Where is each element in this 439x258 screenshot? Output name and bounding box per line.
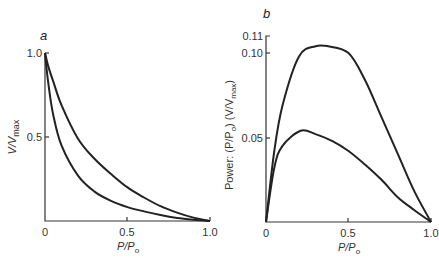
panel-b-axes <box>266 36 431 222</box>
panel-a-axes <box>45 53 210 221</box>
panel-b-xtick-label: 0 <box>263 227 269 239</box>
panel-a-ylabel: V/Vmax <box>6 119 21 154</box>
panel-b-ytick-label: 0.10 <box>242 47 263 59</box>
panel-b-ytick-label: 0.11 <box>242 30 263 42</box>
panel-b-upper-curve <box>266 45 431 222</box>
panel-a-label: a <box>40 28 47 43</box>
panel-b-xtick-label: 1.0 <box>423 227 438 239</box>
panel-a-xtick-label: 0.5 <box>119 226 134 238</box>
panel-a-xtick-label: 1.0 <box>202 226 217 238</box>
panel-a-xlabel: P/Po <box>117 240 140 255</box>
panel-b-ytick-label: 0.05 <box>242 132 263 144</box>
panel-a-upper-curve <box>45 53 210 221</box>
panel-b-lower-curve <box>266 130 431 222</box>
panel-a-xtick-label: 0 <box>42 226 48 238</box>
panel-b-xlabel: P/Po <box>338 241 361 256</box>
panel-b-label: b <box>263 6 270 21</box>
panel-a-ytick-label: 0.5 <box>27 131 42 143</box>
panel-b-xtick-label: 0.5 <box>340 227 355 239</box>
panel-a-ytick-label: 1.0 <box>27 47 42 59</box>
figure: a 1.0 0.5 0 0.5 1.0 P/Po V/Vmax b 0.11 0… <box>0 0 439 258</box>
panel-a: a 1.0 0.5 0 0.5 1.0 P/Po V/Vmax <box>6 28 218 255</box>
panel-b: b 0.11 0.10 0.05 0 0.5 1.0 P/Po Power: (… <box>223 6 439 256</box>
panel-b-ylabel: Power: (P/Po) (V/Vmax) <box>223 80 238 190</box>
panel-a-lower-curve <box>45 53 210 221</box>
